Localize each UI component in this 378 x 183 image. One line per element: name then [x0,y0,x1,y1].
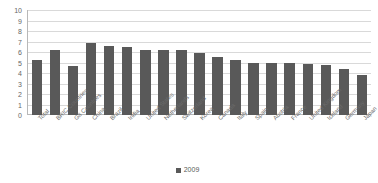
x-axis-label-slot: United States [136,116,154,162]
y-axis-tick-label: 7 [18,38,22,45]
y-axis-tick-label: 5 [18,59,22,66]
x-axis-label-slot: United Kingdom [299,116,317,162]
bar-slot [299,10,317,115]
y-axis-tick-label: 9 [18,17,22,24]
x-axis-label-slot: Korea [190,116,208,162]
y-axis-tick-label: 8 [18,28,22,35]
bar[interactable] [212,57,222,115]
bar-slot [46,10,64,115]
x-axis-labels: TotalBRIC CountriesG8 CountriesChinaBraz… [28,116,371,162]
x-axis-label-slot: Total [28,116,46,162]
bar-slot [118,10,136,115]
bar-slot [245,10,263,115]
bar-slot [136,10,154,115]
x-axis-label-slot: Netherlands [154,116,172,162]
y-axis-tick-label: 0 [18,112,22,119]
x-axis-label-slot: Switzerland [172,116,190,162]
y-axis-tick-label: 1 [18,101,22,108]
bar-slot [227,10,245,115]
bar[interactable] [140,50,150,115]
x-axis-label-slot: BRIC Countries [46,116,64,162]
x-axis-label-slot: Iceland [317,116,335,162]
x-axis-label-slot: Spain [245,116,263,162]
bar-slot [28,10,46,115]
bar[interactable] [32,60,42,115]
y-axis-tick-label: 2 [18,91,22,98]
y-axis-tick-label: 3 [18,80,22,87]
x-axis-label-slot: France [281,116,299,162]
y-axis-tick-label: 6 [18,49,22,56]
legend-label-2009: 2009 [184,166,200,174]
x-axis-label-slot: Japan [353,116,371,162]
x-axis-label-slot: Germany [335,116,353,162]
x-axis-label-slot: Austria [263,116,281,162]
y-axis-tick-label: 10 [14,7,22,14]
y-axis-tick-label: 4 [18,70,22,77]
bar-slot [281,10,299,115]
bar[interactable] [50,50,60,115]
bar-slot [208,10,226,115]
bar-slot [263,10,281,115]
bar[interactable] [248,63,258,116]
bar-slot [100,10,118,115]
x-axis-label-slot: India [118,116,136,162]
x-axis-label-slot: Italy [227,116,245,162]
bar[interactable] [266,63,276,116]
x-axis-label-slot: G8 Countries [64,116,82,162]
bar[interactable] [122,47,132,115]
chart-legend: 2009 [0,166,375,174]
y-axis: 109876543210 [0,10,24,115]
x-axis-label-slot: Brazil [100,116,118,162]
legend-swatch-2009 [176,168,181,173]
x-axis-label-slot: Canada [208,116,226,162]
bar-slot [335,10,353,115]
bar[interactable] [104,46,114,115]
x-axis-label-slot: China [82,116,100,162]
